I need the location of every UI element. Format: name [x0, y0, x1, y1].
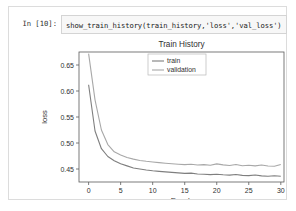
legend-label-validation: validation [167, 66, 196, 73]
matplotlib-figure-output: Train History051015202530Epoch0.450.500.… [33, 35, 287, 199]
y-axis-label: loss [40, 110, 49, 124]
y-tick-label: 0.60 [60, 88, 74, 95]
legend-label-train: train [167, 57, 180, 64]
x-tick-label: 15 [181, 187, 189, 194]
code-text: show_train_history(train_history,'loss',… [66, 21, 282, 30]
code-input-box[interactable]: show_train_history(train_history,'loss',… [61, 15, 287, 34]
y-tick-label: 0.55 [60, 114, 74, 121]
code-cell-input-row: In [10]: show_train_history(train_histor… [9, 13, 286, 37]
series-line-train [89, 85, 281, 177]
x-axis-label: Epoch [171, 196, 193, 199]
x-tick-label: 0 [87, 187, 91, 194]
execution-count-prompt: In [10]: [15, 19, 57, 28]
x-tick-label: 10 [149, 187, 157, 194]
x-tick-label: 25 [245, 187, 253, 194]
chart-title: Train History [158, 40, 205, 49]
train-history-line-chart: Train History051015202530Epoch0.450.500.… [33, 35, 287, 199]
y-tick-label: 0.50 [60, 140, 74, 147]
y-tick-label: 0.65 [60, 62, 74, 69]
x-tick-label: 5 [119, 187, 123, 194]
x-tick-label: 20 [213, 187, 221, 194]
y-tick-label: 0.45 [60, 166, 74, 173]
notebook-cell: In [10]: show_train_history(train_histor… [8, 6, 287, 200]
x-tick-label: 30 [277, 187, 285, 194]
